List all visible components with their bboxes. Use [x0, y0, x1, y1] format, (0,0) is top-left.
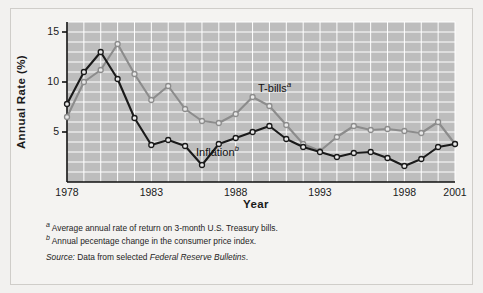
data-point [233, 136, 238, 141]
data-point [200, 119, 205, 124]
series-label-tbills-marker: a [287, 80, 291, 89]
data-point [453, 142, 458, 147]
data-point [385, 156, 390, 161]
series-label-inflation: Inflationb [196, 144, 239, 158]
data-point [233, 112, 238, 117]
data-point [98, 50, 103, 55]
data-point [284, 137, 289, 142]
data-point [216, 121, 221, 126]
footnote-text: Average annual rate of return on 3-month… [50, 223, 278, 233]
y-tick-label: 10 [33, 75, 59, 87]
data-point [115, 42, 120, 47]
data-point [436, 145, 441, 150]
data-point [368, 128, 373, 133]
data-point [98, 68, 103, 73]
data-point [368, 150, 373, 155]
data-point [385, 127, 390, 132]
data-point [65, 115, 70, 120]
source-italic: Federal Reserve Bulletins [150, 252, 246, 262]
data-point [334, 135, 339, 140]
data-point [65, 102, 70, 107]
data-point [419, 157, 424, 162]
data-point [419, 131, 424, 136]
figure-container: Annual Rate (%) Year 51015 1978198319881… [0, 0, 483, 293]
x-tick-label: 1983 [131, 186, 171, 198]
data-point [132, 116, 137, 121]
x-tick-label: 1998 [384, 186, 424, 198]
x-axis-title: Year [56, 198, 456, 210]
data-point [81, 80, 86, 85]
x-tick-label: 1978 [47, 186, 87, 198]
data-point [149, 98, 154, 103]
data-point [250, 130, 255, 135]
data-point [115, 77, 120, 82]
data-point [334, 155, 339, 160]
data-point [301, 145, 306, 150]
data-point [351, 124, 356, 129]
y-tick-label: 15 [33, 25, 59, 37]
footnote-text: Annual pecentage change in the consumer … [50, 236, 256, 246]
data-point [166, 138, 171, 143]
series-label-tbills-text: T-bills [258, 82, 287, 94]
series-label-inflation-text: Inflation [196, 146, 235, 158]
data-point [267, 124, 272, 129]
y-tick-label: 5 [33, 125, 59, 137]
source-line: Source: Data from selected Federal Reser… [46, 252, 248, 262]
data-point [183, 144, 188, 149]
data-point [250, 95, 255, 100]
data-point [166, 84, 171, 89]
y-axis-title: Annual Rate (%) [15, 37, 27, 167]
series-label-tbills: T-billsa [258, 80, 291, 94]
data-point [183, 107, 188, 112]
x-tick-label: 1988 [216, 186, 256, 198]
series-label-inflation-marker: b [235, 144, 239, 153]
data-point [402, 129, 407, 134]
footnote-a: a Average annual rate of return on 3-mon… [46, 220, 456, 233]
data-point [81, 70, 86, 75]
x-tick-label: 2001 [435, 186, 475, 198]
data-point [318, 150, 323, 155]
source-text-after: . [246, 252, 248, 262]
data-point [351, 151, 356, 156]
data-point [402, 164, 407, 169]
data-point [284, 123, 289, 128]
data-point [149, 143, 154, 148]
data-point [200, 163, 205, 168]
data-point [267, 104, 272, 109]
footnotes: a Average annual rate of return on 3-mon… [46, 220, 456, 247]
footnote-b: b Annual pecentage change in the consume… [46, 233, 456, 246]
data-point [436, 120, 441, 125]
source-text-before: Data from selected [75, 252, 150, 262]
x-tick-label: 1993 [300, 186, 340, 198]
data-point [132, 72, 137, 77]
source-label: Source: [46, 252, 75, 262]
line-chart [0, 0, 483, 293]
